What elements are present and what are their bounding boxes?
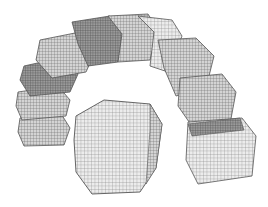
separate-block	[74, 100, 162, 194]
wireframe-mesh-scene	[0, 0, 268, 207]
